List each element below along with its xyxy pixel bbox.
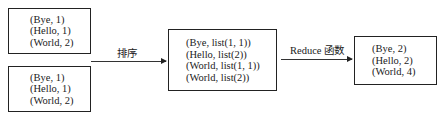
- kv-pair: (Hello, 1): [30, 25, 90, 37]
- grouped-box: (Bye, list(1, 1)) (Hello, list(2)) (Worl…: [168, 29, 277, 91]
- kv-pair: (World, 2): [30, 95, 90, 107]
- sort-label: 排序: [117, 45, 137, 60]
- kv-pair: (World, 4): [372, 66, 436, 78]
- kv-pair: (World, list(2)): [186, 72, 276, 84]
- input-box-1: (Bye, 1) (Hello, 1) (World, 2): [8, 8, 91, 54]
- kv-pair: (Hello, list(2)): [186, 49, 276, 61]
- kv-pair: (Hello, 2): [372, 55, 436, 67]
- kv-pair: (World, 2): [30, 37, 90, 49]
- reduce-label: Reduce 函数: [290, 42, 344, 57]
- kv-pair: (Bye, list(1, 1)): [186, 37, 276, 49]
- reduce-arrow: [281, 59, 352, 60]
- input-box-2: (Bye, 1) (Hello, 1) (World, 2): [8, 66, 91, 112]
- kv-pair: (Bye, 2): [372, 43, 436, 55]
- output-box: (Bye, 2) (Hello, 2) (World, 4): [354, 36, 437, 85]
- kv-pair: (Bye, 1): [30, 72, 90, 84]
- sort-arrow: [91, 61, 166, 62]
- kv-pair: (Bye, 1): [30, 14, 90, 26]
- kv-pair: (Hello, 1): [30, 83, 90, 95]
- kv-pair: (World, list(1, 1)): [186, 60, 276, 72]
